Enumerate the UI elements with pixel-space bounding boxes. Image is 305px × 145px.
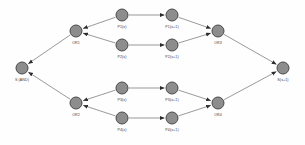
node-p2x[interactable]: [116, 39, 129, 52]
edge-or2-to-s_and: [28, 72, 70, 99]
node-label-p3x: P3(x): [117, 99, 126, 103]
edge-p4x-to-or2: [83, 105, 115, 115]
node-label-p4x: P4(x): [117, 129, 126, 133]
node-label-or2: OR2: [72, 114, 80, 118]
node-label-p2x1: P2(x+1): [165, 56, 178, 60]
node-p1x[interactable]: [116, 9, 129, 22]
node-p2x1[interactable]: [166, 39, 179, 52]
node-or1[interactable]: [70, 25, 83, 38]
node-or4[interactable]: [212, 97, 225, 110]
edge-p3x-to-or2: [83, 90, 115, 100]
node-or3[interactable]: [212, 25, 225, 38]
edge-p3x1-to-or4: [179, 90, 211, 100]
node-label-p2x: P2(x): [117, 56, 126, 60]
node-p4x[interactable]: [116, 112, 129, 125]
edge-p1x-to-or1: [83, 17, 115, 28]
node-p3x1[interactable]: [166, 82, 179, 95]
edge-p1x1-to-or3: [179, 17, 211, 28]
node-label-or4: OR4: [214, 114, 222, 118]
node-label-p3x1: P3(x+1): [165, 99, 178, 103]
edge-p4x1-to-or4: [179, 105, 211, 115]
node-label-p4x1: P4(x+1): [165, 129, 178, 133]
node-sx1[interactable]: [277, 62, 290, 75]
diagram-canvas: S (AND)OR1OR2P1(x)P1(x+1)P2(x)P2(x+1)P3(…: [0, 0, 305, 145]
node-p3x[interactable]: [116, 82, 129, 95]
edge-p2x-to-or1: [83, 33, 115, 43]
node-p4x1[interactable]: [166, 112, 179, 125]
node-label-s-and: S (AND): [15, 79, 29, 83]
node-label-p1x1: P1(x+1): [165, 26, 178, 30]
node-s-and[interactable]: [16, 62, 29, 75]
node-label-or1: OR1: [72, 42, 80, 46]
node-label-or3: OR3: [214, 42, 222, 46]
edge-layer: [0, 0, 305, 145]
edge-or1-to-s_and: [28, 35, 70, 64]
edge-p2x1-to-or3: [179, 33, 211, 43]
node-p1x1[interactable]: [166, 9, 179, 22]
edge-or3-to-sx1: [224, 34, 276, 64]
node-label-p1x: P1(x): [117, 26, 126, 30]
node-or2[interactable]: [70, 97, 83, 110]
node-label-sx1: S(x+1): [277, 79, 288, 83]
edge-or4-to-sx1: [224, 72, 276, 100]
